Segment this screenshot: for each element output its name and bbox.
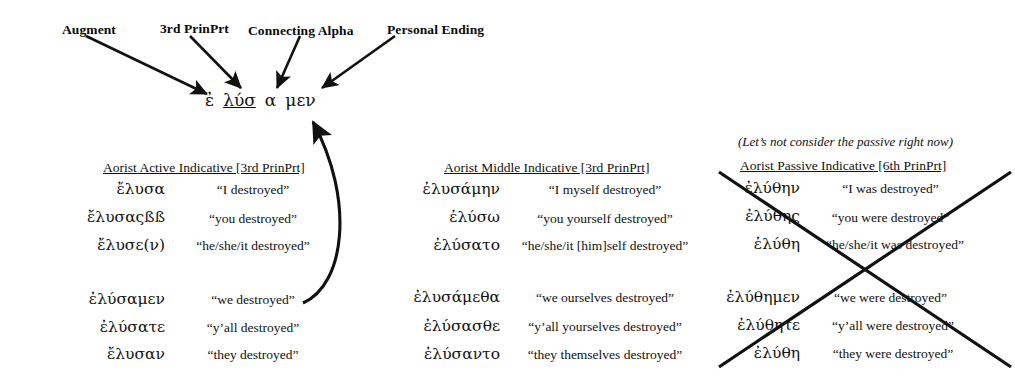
parse-label-personal-ending: Personal Ending: [387, 22, 484, 38]
column-header-passive: Aorist Passive Indicative [6th PrinPrt]: [740, 158, 946, 174]
paradigm-gloss: “you were destroyed”: [808, 210, 973, 226]
passive-strikethrough-line-1: [719, 172, 1011, 367]
paradigm-greek-form: ἔλυσαν: [45, 345, 165, 363]
paradigm-gloss: “y’all destroyed”: [153, 320, 353, 336]
paradigm-greek-form: ἐλύσαμεν: [45, 290, 165, 308]
paradigm-gloss: “I was destroyed”: [808, 181, 973, 197]
column-header-middle: Aorist Middle Indicative [3rd PrinPrt]: [444, 160, 649, 176]
paradigm-greek-form: ἔλυσαςßß: [45, 208, 165, 226]
paradigm-greek-form: ἐλύθημεν: [690, 288, 800, 306]
paradigm-greek-form: ἐλύσατε: [45, 318, 165, 336]
paradigm-gloss: “you destroyed”: [153, 211, 353, 227]
paradigm-greek-form: ἔλυσε(ν): [45, 236, 165, 254]
paradigm-gloss: “they were destroyed”: [808, 346, 978, 362]
paradigm-gloss: “y’all yourselves destroyed”: [500, 319, 710, 335]
parsed-segment-third-principal-part: λύσ: [223, 90, 256, 110]
paradigm-greek-form: ἐλύσαντο: [380, 345, 500, 363]
paradigm-gloss: “he/she/it [him]self destroyed”: [490, 238, 720, 254]
paradigm-greek-form: ἐλύσατο: [380, 236, 500, 254]
paradigm-greek-form: ἔλυσα: [45, 180, 165, 198]
paradigm-gloss: “y’all were destroyed”: [808, 318, 978, 334]
paradigm-gloss: “they destroyed”: [153, 347, 353, 363]
parsed-word: ἐλύσαμεν: [205, 90, 316, 110]
paradigm-greek-form: ἐλύθης: [700, 207, 800, 225]
passive-note: (Let’s not consider the passive right no…: [738, 134, 953, 150]
paradigm-gloss: “I destroyed”: [153, 182, 353, 198]
paradigm-gloss: “I myself destroyed”: [500, 182, 710, 198]
paradigm-gloss: “you yourself destroyed”: [500, 211, 710, 227]
paradigm-greek-form: ἐλύθην: [700, 179, 800, 197]
arrow-augment: [86, 36, 207, 94]
column-header-active: Aorist Active Indicative [3rd PrinPrt]: [103, 160, 305, 176]
worksheet-page: Augment 3rd PrinPrt Connecting Alpha Per…: [0, 0, 1015, 392]
paradigm-greek-form: ἐλυσάμεθα: [380, 288, 500, 306]
parse-label-augment: Augment: [62, 22, 116, 38]
paradigm-gloss: “we ourselves destroyed”: [500, 290, 710, 306]
parse-label-connecting-alpha: Connecting Alpha: [248, 23, 354, 39]
paradigm-greek-form: ἐλυσάμην: [380, 180, 500, 198]
parsed-segment-connecting-alpha: α: [265, 90, 276, 110]
paradigm-greek-form: ἐλύσασθε: [380, 317, 500, 335]
arrow-personal-ending: [322, 36, 395, 88]
paradigm-gloss: “we destroyed”: [153, 292, 353, 308]
paradigm-gloss: “he/she/it destroyed”: [153, 238, 353, 254]
paradigm-greek-form: ἐλύθητε: [690, 316, 800, 334]
paradigm-gloss: “he/she/it was destroyed”: [800, 237, 990, 253]
parse-label-third-principal-part: 3rd PrinPrt: [160, 21, 229, 37]
arrow-connecting-alpha: [277, 36, 300, 88]
paradigm-greek-form: ἐλύθη: [690, 344, 800, 362]
paradigm-greek-form: ἐλύσω: [380, 208, 500, 226]
parsed-segment-personal-ending: μεν: [285, 90, 315, 110]
passive-strikethrough-line-2: [719, 172, 1011, 367]
paradigm-greek-form: ἐλύθη: [700, 235, 800, 253]
arrow-third-principal-part: [190, 36, 241, 88]
parsed-segment-augment: ἐ: [205, 90, 214, 110]
paradigm-gloss: “they themselves destroyed”: [500, 347, 710, 363]
paradigm-gloss: “we were destroyed”: [808, 290, 973, 306]
